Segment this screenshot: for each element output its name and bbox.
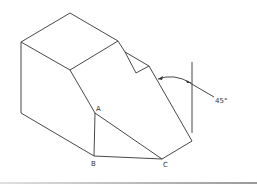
arrowhead-left-icon [158, 76, 163, 80]
edge-BC [94, 156, 162, 159]
angle-label: 45° [215, 97, 227, 105]
left-face-edges [21, 42, 94, 156]
bottom-divider [0, 182, 257, 184]
angle-arc [158, 77, 191, 83]
solid-edges [21, 13, 192, 159]
edge-AC [95, 113, 162, 159]
top-face [21, 13, 118, 70]
front-slope-edge [70, 70, 95, 113]
leader-line [190, 83, 214, 97]
angle-dimension: 45° [158, 62, 227, 133]
label-C: C [163, 161, 168, 169]
edge-AB [94, 113, 95, 156]
label-B: B [91, 160, 96, 168]
label-A: A [96, 105, 101, 113]
isometric-drawing: 45° A B C [0, 0, 257, 184]
